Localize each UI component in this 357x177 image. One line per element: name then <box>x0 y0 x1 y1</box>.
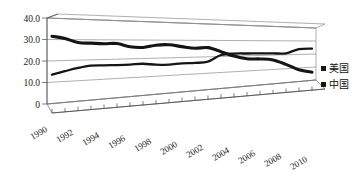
value-axis-labels: 40.0 30.0 20.0 10.0 0 <box>23 14 40 110</box>
ytick-label-0: 0 <box>35 100 40 110</box>
chart-back-wall <box>47 14 325 104</box>
xtick-label-2006: 2006 <box>236 148 257 166</box>
xtick-label-1992: 1992 <box>54 127 75 145</box>
xtick-label-2000: 2000 <box>158 139 179 157</box>
chart-container: 40.0 30.0 20.0 10.0 0 <box>0 0 357 177</box>
xtick-label-2002: 2002 <box>184 142 205 160</box>
series-line-zhongguo <box>52 49 312 75</box>
data-series-group <box>52 36 312 74</box>
xtick-label-1996: 1996 <box>106 133 127 151</box>
xtick-label-2008: 2008 <box>262 151 283 169</box>
xtick-label-2004: 2004 <box>210 145 231 163</box>
xtick-label-1998: 1998 <box>132 136 153 154</box>
legend-label-meiguo: 美国 <box>329 62 349 74</box>
ytick-label-20: 20.0 <box>23 57 40 67</box>
xtick-label-1994: 1994 <box>80 130 101 148</box>
chart-legend: 美国 中国 <box>321 62 349 90</box>
line-chart-3d: 40.0 30.0 20.0 10.0 0 <box>0 0 357 177</box>
ytick-label-30: 30.0 <box>23 35 40 45</box>
ytick-label-10: 10.0 <box>23 78 40 88</box>
year-axis-ticks <box>52 86 312 113</box>
xtick-label-1990: 1990 <box>28 124 49 142</box>
xtick-label-2010: 2010 <box>288 154 309 172</box>
legend-label-zhongguo: 中国 <box>329 78 349 90</box>
value-axis <box>42 14 58 104</box>
year-axis-labels: 1990 1992 1994 1996 1998 2000 2002 2004 … <box>28 124 309 172</box>
ytick-label-40: 40.0 <box>23 14 40 24</box>
chart-floor <box>47 80 325 113</box>
legend-swatch-meiguo <box>321 66 326 71</box>
legend-swatch-zhongguo <box>321 82 326 87</box>
